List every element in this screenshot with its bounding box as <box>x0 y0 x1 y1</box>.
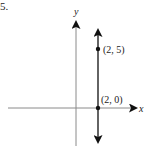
x-axis-label: x <box>138 103 144 114</box>
coordinate-plane-figure: 5. y x (2, 5) (2, 0) <box>0 0 145 155</box>
point-2-5 <box>96 47 100 51</box>
point-label-2-5: (2, 5) <box>103 44 125 56</box>
problem-number: 5. <box>0 0 8 12</box>
point-label-2-0: (2, 0) <box>101 94 123 106</box>
point-2-0 <box>96 106 100 110</box>
y-axis-label: y <box>73 6 79 17</box>
graph-svg: y x (2, 5) (2, 0) <box>0 0 145 155</box>
